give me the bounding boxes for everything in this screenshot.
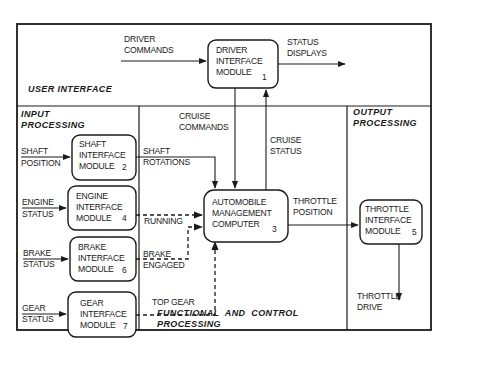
module-label: MODULE xyxy=(78,264,114,274)
throttle-position-label-2: POSITION xyxy=(293,207,332,217)
module-label: INTERFACE xyxy=(216,56,263,66)
throttle-interface-module: THROTTLE INTERFACE MODULE 5 xyxy=(360,200,422,244)
gear-interface-module: GEAR INTERFACE MODULE 7 xyxy=(68,292,136,337)
shaft-position-label-1: SHAFT xyxy=(21,146,49,156)
brake-status-label-1: BRAKE xyxy=(23,248,52,258)
status-displays-label-2: DISPLAYS xyxy=(287,48,327,58)
module-label: INTERFACE xyxy=(80,309,127,319)
module-number: 2 xyxy=(122,162,127,172)
module-label: INTERFACE xyxy=(79,150,126,160)
engine-status-label-2: STATUS xyxy=(22,209,54,219)
module-number: 1 xyxy=(262,72,267,82)
engine-status-label-1: ENGINE xyxy=(22,197,54,207)
cruise-status-label-1: CRUISE xyxy=(270,135,302,145)
brake-status-label-2: STATUS xyxy=(23,259,55,269)
throttle-position-label-1: THROTTLE xyxy=(293,196,337,206)
module-label: MODULE xyxy=(79,161,115,171)
section-functional-line2: PROCESSING xyxy=(157,319,221,329)
module-label: AUTOMOBILE xyxy=(212,197,267,207)
module-number: 5 xyxy=(412,227,417,237)
module-label: MODULE xyxy=(80,320,116,330)
cruise-commands-label-2: COMMANDS xyxy=(179,122,229,132)
module-label: MODULE xyxy=(76,213,112,223)
cruise-control-diagram: USER INTERFACE INPUT PROCESSING FUNCTION… xyxy=(0,0,479,367)
shaft-interface-module: SHAFT INTERFACE MODULE 2 xyxy=(72,135,136,180)
section-output-processing-line1: OUTPUT xyxy=(353,107,393,117)
section-input-processing-line1: INPUT xyxy=(21,109,51,119)
module-label: INTERFACE xyxy=(76,202,123,212)
module-label: INTERFACE xyxy=(78,253,125,263)
module-label: INTERFACE xyxy=(365,215,412,225)
section-output-processing-line2: PROCESSING xyxy=(353,118,417,128)
module-label: BRAKE xyxy=(78,242,107,252)
module-label: COMPUTER xyxy=(212,219,260,229)
section-user-interface: USER INTERFACE xyxy=(28,84,113,94)
status-displays-label-1: STATUS xyxy=(287,37,319,47)
module-label: SHAFT xyxy=(79,139,107,149)
engine-interface-module: ENGINE INTERFACE MODULE 4 xyxy=(68,186,136,230)
running-label: RUNNING xyxy=(144,216,183,226)
module-number: 4 xyxy=(122,213,127,223)
shaft-rotations-label-1: SHAFT xyxy=(143,146,171,156)
module-label: GEAR xyxy=(80,298,104,308)
gear-status-label-2: STATUS xyxy=(22,314,54,324)
brake-interface-module: BRAKE INTERFACE MODULE 6 xyxy=(70,237,136,281)
cruise-commands-label-1: CRUISE xyxy=(179,111,211,121)
section-input-processing-line2: PROCESSING xyxy=(21,120,85,130)
shaft-rotations-label-2: ROTATIONS xyxy=(143,157,191,167)
module-label: THROTTLE xyxy=(365,204,409,214)
module-label: MANAGEMENT xyxy=(212,208,273,218)
brake-engaged-label-1: BRAKE xyxy=(143,249,172,259)
module-label: MODULE xyxy=(216,67,252,77)
section-functional-line1: FUNCTIONAL AND CONTROL xyxy=(157,308,299,318)
module-label: DRIVER xyxy=(216,45,247,55)
throttle-drive-label-2: DRIVE xyxy=(357,302,383,312)
driver-commands-label-1: DRIVER xyxy=(124,34,155,44)
module-label: MODULE xyxy=(365,226,401,236)
driver-commands-label-2: COMMANDS xyxy=(124,45,174,55)
brake-engaged-label-2: ENGAGED xyxy=(143,260,185,270)
throttle-drive-label-1: THROTTLE xyxy=(357,291,401,301)
module-number: 7 xyxy=(123,321,128,331)
module-number: 6 xyxy=(122,265,127,275)
module-label: ENGINE xyxy=(76,191,108,201)
driver-interface-module: DRIVER INTERFACE MODULE 1 xyxy=(208,40,278,88)
cruise-status-label-2: STATUS xyxy=(270,146,302,156)
gear-status-label-1: GEAR xyxy=(22,303,46,313)
automobile-management-computer: AUTOMOBILE MANAGEMENT COMPUTER 3 xyxy=(204,190,288,242)
module-number: 3 xyxy=(272,224,277,234)
top-gear-label: TOP GEAR xyxy=(152,297,195,307)
shaft-position-label-2: POSITION xyxy=(21,158,60,168)
